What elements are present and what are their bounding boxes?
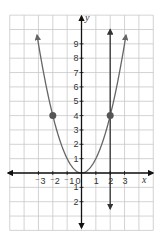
- y-axis-label: y: [84, 12, 90, 23]
- y-tick-label: 6: [74, 82, 79, 92]
- y-tick-label: 8: [74, 53, 79, 63]
- y-tick-label: 2: [74, 139, 79, 149]
- y-tick-label: 3: [74, 125, 79, 135]
- y-tick-label: 4: [74, 111, 79, 121]
- x-axis-label: x: [141, 174, 147, 185]
- x-tick-label: ⁻3: [35, 176, 45, 186]
- x-tick-label: 1: [94, 176, 99, 186]
- y-tick-label: 1: [74, 182, 79, 192]
- y-tick-label: 1: [74, 154, 79, 164]
- axes: [8, 16, 153, 228]
- data-point: [107, 112, 114, 119]
- coordinate-graph: ⁻3⁻2⁻1012398765432112 x y: [0, 0, 159, 245]
- x-tick-label: 3: [123, 176, 128, 186]
- x-tick-label: 2: [108, 176, 113, 186]
- y-tick-label: 7: [74, 68, 79, 78]
- data-point: [49, 112, 56, 119]
- y-tick-label: 5: [74, 96, 79, 106]
- y-tick-label: 2: [74, 197, 79, 207]
- y-tick-label: 9: [74, 39, 79, 49]
- x-tick-label: ⁻2: [50, 176, 60, 186]
